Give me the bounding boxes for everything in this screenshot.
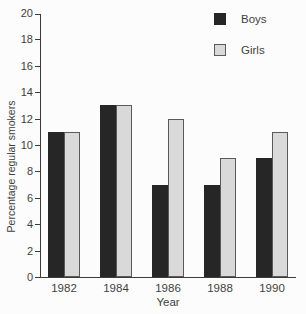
bar-girls-1986 xyxy=(168,119,184,277)
y-tick-4 xyxy=(35,224,40,225)
girls-swatch-icon xyxy=(214,44,226,56)
y-tick-label-10: 10 xyxy=(9,139,33,152)
y-axis-line xyxy=(40,14,41,278)
bar-girls-1982 xyxy=(64,132,80,277)
y-tick-12 xyxy=(35,119,40,120)
y-tick-label-4: 4 xyxy=(9,218,33,231)
y-tick-label-14: 14 xyxy=(9,86,33,99)
bar-girls-1990 xyxy=(272,132,288,277)
y-tick-6 xyxy=(35,198,40,199)
y-tick-18 xyxy=(35,39,40,40)
bar-girls-1984 xyxy=(116,105,132,277)
y-tick-14 xyxy=(35,92,40,93)
y-tick-label-18: 18 xyxy=(9,33,33,46)
bar-boys-1988 xyxy=(204,185,220,277)
y-tick-20 xyxy=(35,14,40,15)
y-tick-2 xyxy=(35,251,40,252)
y-tick-label-0: 0 xyxy=(9,271,33,284)
x-axis-title: Year xyxy=(138,296,198,308)
boys-swatch-icon xyxy=(214,13,226,25)
y-tick-label-20: 20 xyxy=(9,7,33,20)
legend-item-boys: Boys xyxy=(214,12,267,25)
y-tick-16 xyxy=(35,66,40,67)
legend-label-girls: Girls xyxy=(241,44,265,56)
y-tick-label-12: 12 xyxy=(9,113,33,126)
y-tick-0 xyxy=(35,277,40,278)
x-tick-label-1990: 1990 xyxy=(248,282,296,294)
bar-boys-1982 xyxy=(48,132,64,277)
y-tick-label-8: 8 xyxy=(9,165,33,178)
y-tick-label-6: 6 xyxy=(9,192,33,205)
x-axis-line xyxy=(40,277,296,278)
y-tick-10 xyxy=(35,145,40,146)
x-tick-label-1986: 1986 xyxy=(144,282,192,294)
y-tick-label-2: 2 xyxy=(9,245,33,258)
bar-girls-1988 xyxy=(220,158,236,277)
bar-boys-1986 xyxy=(152,185,168,277)
x-tick-label-1984: 1984 xyxy=(92,282,140,294)
legend-label-boys: Boys xyxy=(241,13,267,25)
bar-boys-1984 xyxy=(100,105,116,277)
y-tick-8 xyxy=(35,171,40,172)
x-tick-label-1982: 1982 xyxy=(40,282,88,294)
legend: Boys Girls xyxy=(214,12,267,56)
y-tick-label-16: 16 xyxy=(9,60,33,73)
smokers-bar-chart-figure: Percentage regular smokers 0246810121416… xyxy=(0,0,306,314)
x-tick-label-1988: 1988 xyxy=(196,282,244,294)
bar-boys-1990 xyxy=(256,158,272,277)
legend-item-girls: Girls xyxy=(214,43,267,56)
